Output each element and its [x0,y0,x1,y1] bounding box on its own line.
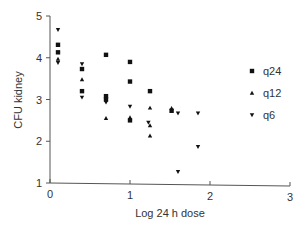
series-q12 [56,57,174,138]
data-point-q24 [56,43,60,47]
data-point-q6 [196,112,200,116]
y-axis-title: CFU kidney [12,71,24,129]
legend-marker-q24 [250,69,254,73]
legend-label: q6 [263,109,275,121]
data-point-q12 [56,57,60,61]
data-point-q12 [80,77,84,81]
x-axis-line [50,183,290,186]
axes [50,16,290,186]
series-q6 [56,28,200,174]
legend-item-q6: q6 [250,109,275,121]
data-point-q24 [128,60,132,64]
data-point-q12 [128,115,132,119]
scatter-chart: 12345 0123 CFU kidney Log 24 h dose q24q… [0,0,306,238]
legend-label: q24 [263,65,281,77]
data-point-q6 [176,112,180,116]
data-point-q6 [128,105,132,109]
data-points [56,28,200,174]
y-ticks: 12345 [36,10,50,189]
legend-marker-q6 [250,113,254,117]
data-point-q12 [148,134,152,138]
data-point-q6 [176,170,180,174]
x-tick-label: 3 [287,191,293,203]
legend-label: q12 [263,87,281,99]
x-tick-label: 2 [207,190,213,202]
data-point-q24 [80,89,84,93]
data-point-q12 [148,106,152,110]
data-point-q24 [56,50,60,54]
data-point-q6 [80,62,84,66]
data-point-q6 [196,145,200,149]
data-point-q24 [80,67,84,71]
y-tick-label: 4 [36,52,42,64]
data-point-q6 [104,101,108,105]
x-ticks: 0123 [47,179,293,203]
data-point-q12 [104,116,108,120]
y-tick-label: 5 [36,10,42,22]
legend-item-q24: q24 [250,65,282,77]
y-tick-label: 2 [36,135,42,147]
data-point-q24 [148,89,152,93]
data-point-q24 [104,53,108,57]
data-point-q6 [56,61,60,65]
legend: q24q12q6 [250,65,282,121]
data-point-q12 [169,106,173,110]
x-tick-label: 1 [127,189,133,201]
series-q24 [56,43,174,123]
y-tick-label: 1 [36,177,42,189]
x-axis-title: Log 24 h dose [135,207,205,219]
x-tick-label: 0 [47,188,53,200]
legend-marker-q12 [250,91,254,95]
data-point-q24 [128,79,132,83]
legend-item-q12: q12 [250,87,282,99]
data-point-q6 [56,28,60,32]
y-tick-label: 3 [36,94,42,106]
data-point-q6 [80,96,84,100]
